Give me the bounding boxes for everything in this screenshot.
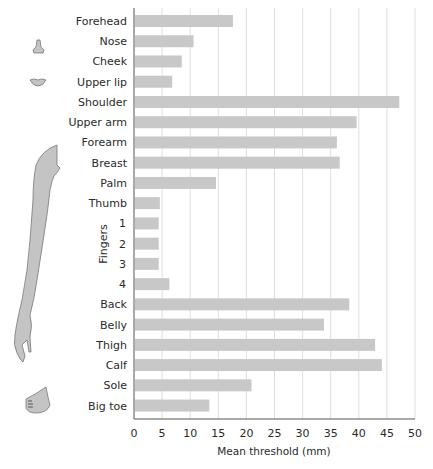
bar <box>135 76 172 88</box>
category-label: Forehead <box>76 15 127 28</box>
category-label: Thumb <box>88 197 127 210</box>
x-tick-label: 45 <box>380 427 394 440</box>
arm-icon <box>14 145 60 362</box>
bar <box>135 258 159 270</box>
bar <box>135 55 182 67</box>
bar <box>135 96 399 108</box>
bar <box>135 116 357 128</box>
category-label: Shoulder <box>78 96 127 109</box>
body-illustrations <box>14 40 60 413</box>
bar <box>135 298 349 310</box>
category-label: Palm <box>100 177 127 190</box>
x-tick-label: 40 <box>352 427 366 440</box>
category-label: 2 <box>119 238 126 251</box>
x-tick-label: 5 <box>159 427 166 440</box>
category-label: Thigh <box>95 339 127 352</box>
category-label: Calf <box>106 359 128 372</box>
x-tick-labels: 05101520253035404550 <box>131 427 423 440</box>
bar <box>135 400 209 412</box>
category-label: 3 <box>119 258 126 271</box>
category-label: Upper arm <box>68 116 127 129</box>
bar <box>135 379 251 391</box>
foot-icon <box>26 387 50 413</box>
x-tick-label: 35 <box>324 427 338 440</box>
category-label: Belly <box>100 319 127 332</box>
bars <box>135 15 399 412</box>
bar <box>135 278 169 290</box>
bar <box>135 238 159 250</box>
bar <box>135 177 216 189</box>
x-tick-label: 30 <box>296 427 310 440</box>
x-tick-label: 10 <box>183 427 197 440</box>
category-label: Forearm <box>82 136 128 149</box>
x-tick-label: 25 <box>268 427 282 440</box>
x-tick-label: 15 <box>211 427 225 440</box>
category-label: 1 <box>119 217 126 230</box>
x-tick-label: 20 <box>239 427 253 440</box>
bar <box>135 359 382 371</box>
x-tick-label: 50 <box>408 427 422 440</box>
bar <box>135 157 340 169</box>
bar <box>135 197 160 209</box>
category-label: 4 <box>119 278 126 291</box>
gridlines <box>162 8 415 419</box>
bar <box>135 339 375 351</box>
bar <box>135 217 159 229</box>
category-label: Upper lip <box>77 76 127 89</box>
category-label: Sole <box>103 379 127 392</box>
fingers-group-label: Fingers <box>97 224 110 264</box>
category-label: Cheek <box>92 55 127 68</box>
nose-icon <box>33 40 44 53</box>
category-label: Nose <box>100 35 128 48</box>
category-label: Big toe <box>88 400 127 413</box>
x-axis-title: Mean threshold (mm) <box>217 445 330 457</box>
x-tick-label: 0 <box>131 427 138 440</box>
bar <box>135 136 337 148</box>
category-labels: ForeheadNoseCheekUpper lipShoulderUpper … <box>68 15 128 413</box>
category-label: Back <box>100 298 127 311</box>
bar <box>135 15 233 27</box>
two-point-threshold-chart: ForeheadNoseCheekUpper lipShoulderUpper … <box>0 0 433 469</box>
category-label: Breast <box>92 157 128 170</box>
bar <box>135 35 194 47</box>
bar <box>135 319 324 331</box>
lips-icon <box>30 79 46 86</box>
